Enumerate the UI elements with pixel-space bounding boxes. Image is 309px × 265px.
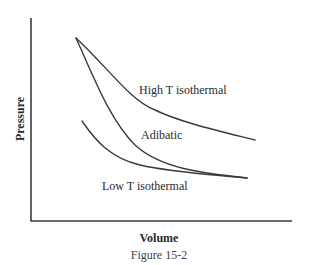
y-axis-label: Pressure <box>13 97 28 141</box>
adiabatic-curve <box>76 38 247 178</box>
figure-caption: Figure 15-2 <box>131 248 187 263</box>
low-t-isothermal-label: Low T isothermal <box>102 179 188 194</box>
adiabatic-label: Adibatic <box>141 128 182 143</box>
pv-diagram-figure: High T isothermal Adibatic Low T isother… <box>0 0 309 265</box>
high-t-isothermal-label: High T isothermal <box>139 83 227 98</box>
x-axis-label: Volume <box>140 231 179 246</box>
